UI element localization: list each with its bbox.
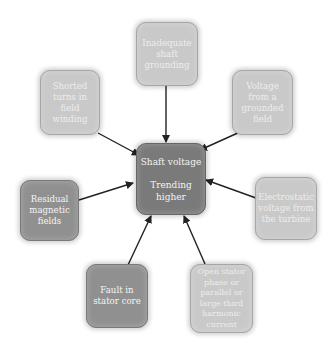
cause-fault-in-stator-core: Fault in stator core <box>86 264 148 328</box>
cause-voltage-from-grounded-field: Voltage from a grounded field <box>232 70 293 135</box>
cause-inadequate-shaft-grounding: Inadequate shaft grounding <box>136 22 198 86</box>
arrow-bottom-right <box>184 216 205 264</box>
arrow-top-left <box>98 133 139 155</box>
center-node-shaft-voltage: Shaft voltage Trending higher <box>136 143 206 215</box>
arrow-bottom-left <box>128 216 151 265</box>
cause-open-stator-phase: Open stator phase or parallel or large t… <box>190 264 253 333</box>
center-line-1: Shaft voltage <box>141 156 202 168</box>
cause-shorted-turns-field-winding: Shorted turns in field winding <box>40 70 100 135</box>
cause-electrostatic-voltage-turbine: Electrostatic voltage from the turbine <box>255 177 317 240</box>
arrow-left <box>79 183 133 200</box>
arrow-right <box>206 180 256 198</box>
cause-residual-magnetic-fields: Residual magnetic fields <box>20 180 79 241</box>
center-line-2: Trending higher <box>140 179 202 203</box>
arrow-top-right <box>200 132 240 150</box>
